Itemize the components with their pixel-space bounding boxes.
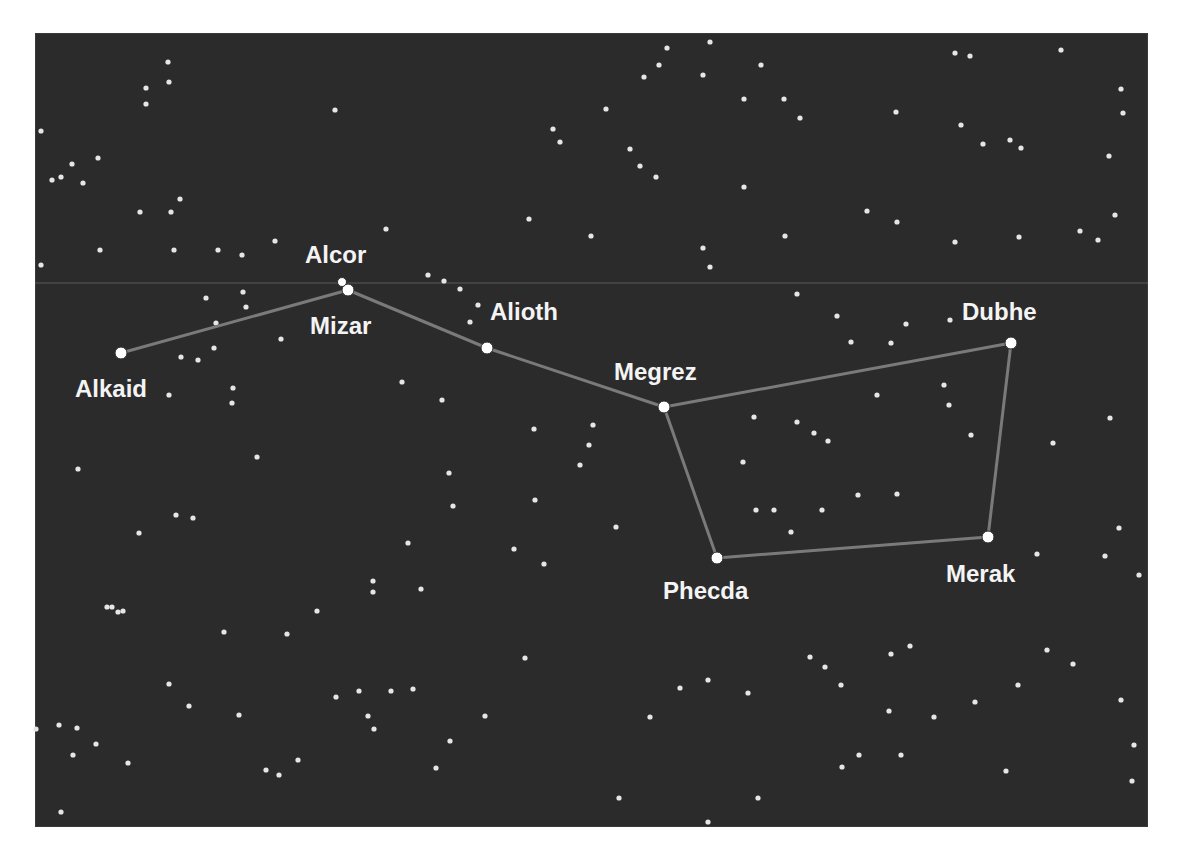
background-star [433, 765, 438, 770]
background-star [1118, 697, 1123, 702]
background-star [705, 677, 710, 682]
background-star [794, 419, 799, 424]
background-star [603, 106, 608, 111]
background-star [588, 233, 593, 238]
background-stars [33, 39, 1141, 824]
background-star [856, 752, 861, 757]
background-star [653, 174, 658, 179]
background-star [272, 238, 277, 243]
background-star [952, 50, 957, 55]
background-star [1058, 47, 1063, 52]
background-star [794, 291, 799, 296]
background-star [38, 262, 43, 267]
background-star [447, 738, 452, 743]
background-star [295, 757, 300, 762]
background-star [898, 752, 903, 757]
background-star [278, 336, 283, 341]
background-star [741, 184, 746, 189]
background-star [441, 278, 446, 283]
background-star [405, 540, 410, 545]
background-star [383, 226, 388, 231]
background-star [745, 690, 750, 695]
background-star [1120, 110, 1125, 115]
background-star [69, 161, 74, 166]
background-star [1118, 86, 1123, 91]
background-star [531, 426, 536, 431]
background-star [819, 507, 824, 512]
background-star [946, 402, 951, 407]
background-star [239, 252, 244, 257]
background-star [450, 503, 455, 508]
background-star [1102, 553, 1107, 558]
constellation-lines [121, 290, 1011, 558]
connector-megrez-dubhe [664, 343, 1011, 407]
background-star [557, 139, 562, 144]
background-star [166, 681, 171, 686]
background-star [705, 819, 710, 824]
background-star [637, 163, 642, 168]
background-star [947, 317, 952, 322]
background-star [807, 654, 812, 659]
background-star [314, 608, 319, 613]
background-star [740, 459, 745, 464]
background-star [229, 400, 234, 405]
background-star [771, 507, 776, 512]
background-star [886, 708, 891, 713]
background-star [58, 174, 63, 179]
background-star [1003, 768, 1008, 773]
background-star [467, 319, 472, 324]
background-star [627, 146, 632, 151]
background-star [1136, 572, 1141, 577]
label-phecda: Phecda [663, 577, 749, 604]
background-star [120, 608, 125, 613]
background-star [70, 752, 75, 757]
background-star [125, 760, 130, 765]
background-star [958, 122, 963, 127]
background-star [700, 245, 705, 250]
background-star [541, 561, 546, 566]
label-alioth: Alioth [490, 298, 558, 325]
background-star [893, 109, 898, 114]
star-megrez [658, 401, 670, 413]
background-star [888, 340, 893, 345]
background-star [236, 712, 241, 717]
background-star [590, 422, 595, 427]
background-star [1131, 742, 1136, 747]
figure-canvas: AlkaidMizarAlcorAliothMegrezDubheMerakPh… [0, 0, 1182, 852]
background-star [74, 725, 79, 730]
background-star [526, 216, 531, 221]
label-merak: Merak [946, 560, 1016, 587]
background-star [284, 631, 289, 636]
background-star [755, 795, 760, 800]
background-star [855, 492, 860, 497]
constellation-diagram: AlkaidMizarAlcorAliothMegrezDubheMerakPh… [0, 0, 1182, 852]
star-alioth [481, 342, 493, 354]
background-star [475, 302, 480, 307]
background-star [700, 72, 705, 77]
background-star [781, 96, 786, 101]
background-star [511, 546, 516, 551]
background-star [1112, 212, 1117, 217]
star-phecda [711, 552, 723, 564]
star-alkaid [115, 347, 127, 359]
connector-dubhe-merak [988, 343, 1011, 537]
background-star [980, 141, 985, 146]
background-star [758, 62, 763, 67]
background-star [177, 196, 182, 201]
background-star [49, 177, 54, 182]
background-star [888, 651, 893, 656]
background-star [115, 609, 120, 614]
background-star [834, 313, 839, 318]
background-star [211, 345, 216, 350]
background-star [56, 722, 61, 727]
background-star [941, 382, 946, 387]
background-star [848, 339, 853, 344]
background-star [822, 664, 827, 669]
background-star [616, 795, 621, 800]
background-star [1107, 415, 1112, 420]
background-star [967, 53, 972, 58]
background-star [173, 512, 178, 517]
background-star [1106, 153, 1111, 158]
background-star [577, 462, 582, 467]
background-star [782, 233, 787, 238]
